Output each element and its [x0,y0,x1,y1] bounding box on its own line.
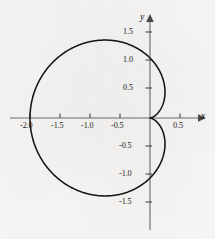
x-tick-label-neg-0-5: -0.5 [111,121,124,130]
plot-canvas [0,0,215,239]
x-tick-label-0-5: 0.5 [173,121,183,130]
y-tick-label-neg-1-5: -1.5 [119,197,132,206]
y-tick-label-0-5: 0.5 [123,83,133,92]
x-tick-label-neg-1-5: -1.5 [51,121,64,130]
y-tick-label-neg-1-0: -1.0 [119,169,132,178]
x-tick-label-neg-2-0: -2.0 [20,121,33,130]
y-axis-arrowhead [146,14,154,22]
y-tick-label-neg-0-5: -0.5 [119,141,132,150]
y-tick-label-1-5: 1.5 [123,27,133,36]
y-axis-label: y [140,11,144,22]
cardioid-figure: -2.0 -1.5 -1.0 -0.5 0.5 1.5 1.0 0.5 -0.5… [0,0,215,239]
y-tick-label-1-0: 1.0 [123,55,133,64]
x-axis-label: x [201,110,205,121]
x-tick-label-neg-1-0: -1.0 [81,121,94,130]
